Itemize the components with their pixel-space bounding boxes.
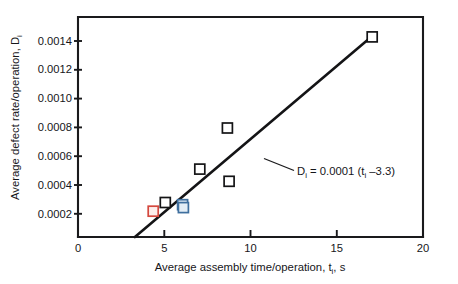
x-tick-label: 0 bbox=[75, 242, 81, 254]
x-tick-label: 20 bbox=[417, 242, 429, 254]
data-point-marker bbox=[160, 198, 170, 208]
figure-container: Average defect rate/operation, Di 0.0014… bbox=[0, 0, 458, 284]
y-axis-title-main: Average defect rate/operation, D bbox=[9, 37, 21, 200]
y-axis-title-sub: i bbox=[15, 35, 24, 37]
svg-text:Average assembly time/operatio: Average assembly time/operation, ti, s bbox=[155, 261, 346, 276]
y-tick-label: 0.0008 bbox=[38, 121, 72, 133]
plot-frame bbox=[78, 17, 423, 237]
annotation-leader-line bbox=[264, 159, 294, 171]
y-tick-label: 0.0010 bbox=[38, 92, 72, 104]
x-tick-label: 5 bbox=[161, 242, 167, 254]
fit-equation-annotation: Di = 0.0001 (ti –3.3) bbox=[297, 165, 395, 180]
y-tick-label: 0.0002 bbox=[38, 208, 72, 220]
data-point-marker bbox=[195, 164, 205, 174]
x-tick-label: 15 bbox=[331, 242, 343, 254]
y-tick-label: 0.0006 bbox=[38, 150, 72, 162]
scatter-chart: Average defect rate/operation, Di 0.0014… bbox=[0, 0, 458, 284]
svg-text:Average defect rate/operation,: Average defect rate/operation, Di bbox=[9, 35, 24, 200]
y-tick-label: 0.0014 bbox=[38, 35, 72, 47]
eq-prefix: D bbox=[297, 165, 305, 177]
data-point-marker bbox=[224, 176, 234, 186]
data-point-marker bbox=[367, 32, 377, 42]
y-tick-label: 0.0004 bbox=[38, 179, 72, 191]
y-axis-title: Average defect rate/operation, Di bbox=[9, 35, 24, 200]
x-tick-label: 10 bbox=[244, 242, 256, 254]
y-tick-labels: 0.0014 0.0012 0.0010 0.0008 0.0006 0.000… bbox=[38, 35, 72, 220]
x-axis-title-main: Average assembly time/operation, t bbox=[155, 261, 333, 273]
eq-suffix: –3.3) bbox=[366, 165, 395, 177]
y-tick-label: 0.0012 bbox=[38, 63, 72, 75]
data-point-marker bbox=[178, 203, 188, 213]
x-axis-title-tail: , s bbox=[333, 261, 345, 273]
x-tick-labels: 0 5 10 15 20 bbox=[75, 242, 429, 254]
eq-mid: = 0.0001 (t bbox=[307, 165, 365, 177]
data-point-marker bbox=[148, 206, 158, 216]
svg-text:Di = 0.0001 (ti –3.3): Di = 0.0001 (ti –3.3) bbox=[297, 165, 395, 180]
x-axis-title: Average assembly time/operation, ti, s bbox=[155, 261, 346, 276]
data-point-marker bbox=[222, 123, 232, 133]
